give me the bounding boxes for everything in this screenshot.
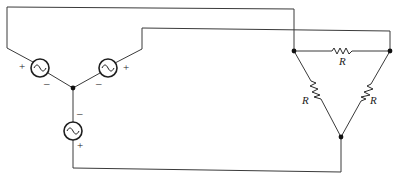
plus-label: + — [77, 139, 83, 151]
wire-delta-right-b — [341, 101, 361, 137]
wire-right-phase — [115, 28, 390, 63]
ac-source-bottom: – + — [64, 107, 83, 151]
ac-source-left: + – — [19, 59, 50, 89]
wire-delta-right-a — [371, 51, 390, 84]
wire-left-phase — [7, 7, 294, 62]
resistor-label: R — [338, 55, 346, 67]
wire-delta-left-b — [321, 99, 341, 137]
wires — [7, 7, 390, 172]
node-delta-right — [388, 49, 393, 54]
resistor-label: R — [301, 94, 309, 106]
minus-label: – — [76, 107, 83, 119]
node-wye-center — [71, 86, 76, 91]
wire-delta-left-a — [294, 51, 311, 81]
plus-label: + — [123, 61, 129, 73]
node-delta-bottom — [339, 135, 344, 140]
circuit-diagram: R R R + – + – – + — [0, 0, 398, 179]
resistor-zigzag-icon — [332, 48, 352, 54]
plus-label: + — [19, 60, 25, 72]
ac-source-right: + – — [95, 59, 129, 89]
node-delta-left — [292, 49, 297, 54]
resistor-right: R — [361, 84, 377, 106]
resistor-top: R — [332, 48, 352, 67]
minus-label: – — [43, 77, 50, 89]
wire-left-to-center — [48, 73, 73, 88]
resistor-label: R — [369, 94, 377, 106]
resistor-left: R — [301, 81, 321, 106]
wire-bottom-phase — [73, 137, 341, 172]
minus-label: – — [95, 77, 102, 89]
resistor-zigzag-icon — [310, 81, 321, 99]
